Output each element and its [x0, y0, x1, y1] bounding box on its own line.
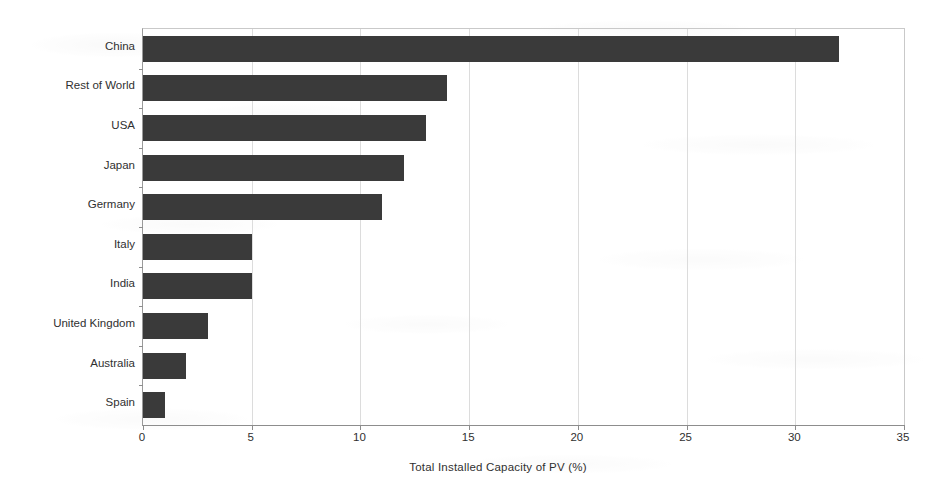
x-axis-tick: [578, 425, 579, 430]
x-axis-tick-label: 5: [231, 431, 271, 443]
x-axis-tick-label: 10: [339, 431, 379, 443]
x-gridline: [795, 29, 796, 425]
category-label: Australia: [0, 357, 135, 369]
x-axis-tick: [795, 425, 796, 430]
y-axis-tick: [139, 187, 143, 188]
category-label: Italy: [0, 238, 135, 250]
y-axis-tick: [139, 267, 143, 268]
bar: [143, 234, 252, 260]
bar: [143, 155, 404, 181]
x-gridline: [687, 29, 688, 425]
bar: [143, 273, 252, 299]
bar: [143, 392, 165, 418]
x-gridline: [469, 29, 470, 425]
bar: [143, 36, 839, 62]
x-axis-tick-label: 15: [448, 431, 488, 443]
y-axis-tick: [139, 306, 143, 307]
x-axis-tick-label: 20: [557, 431, 597, 443]
bar: [143, 194, 382, 220]
category-label: USA: [0, 119, 135, 131]
category-label: Germany: [0, 198, 135, 210]
bar: [143, 353, 186, 379]
category-label: United Kingdom: [0, 317, 135, 329]
y-axis-tick: [139, 227, 143, 228]
x-axis-tick-label: 0: [122, 431, 162, 443]
x-axis-title-text: Total Installed Capacity of PV (%): [409, 461, 586, 473]
y-axis-tick: [139, 385, 143, 386]
x-axis-tick: [904, 425, 905, 430]
category-axis-labels: ChinaRest of WorldUSAJapanGermanyItalyIn…: [0, 28, 135, 424]
category-label: China: [0, 40, 135, 52]
bar: [143, 313, 208, 339]
category-label: Japan: [0, 159, 135, 171]
plot-area: [142, 28, 905, 426]
x-axis-tick-label: 25: [666, 431, 706, 443]
y-axis-tick: [139, 346, 143, 347]
bar: [143, 75, 447, 101]
y-axis-tick: [139, 108, 143, 109]
x-gridline: [578, 29, 579, 425]
y-axis-tick: [139, 148, 143, 149]
x-axis-tick: [143, 425, 144, 430]
horizontal-bar-chart: ChinaRest of WorldUSAJapanGermanyItalyIn…: [0, 0, 948, 499]
x-axis-tick: [469, 425, 470, 430]
category-label: Spain: [0, 396, 135, 408]
bar: [143, 115, 426, 141]
x-axis-tick-label: 35: [883, 431, 923, 443]
x-axis-tick: [252, 425, 253, 430]
y-axis-tick: [139, 69, 143, 70]
category-label: Rest of World: [0, 79, 135, 91]
x-axis-title: Total Installed Capacity of PV (%): [0, 461, 948, 473]
x-axis-tick: [687, 425, 688, 430]
x-axis-tick: [360, 425, 361, 430]
x-axis-tick-label: 30: [774, 431, 814, 443]
category-label: India: [0, 277, 135, 289]
